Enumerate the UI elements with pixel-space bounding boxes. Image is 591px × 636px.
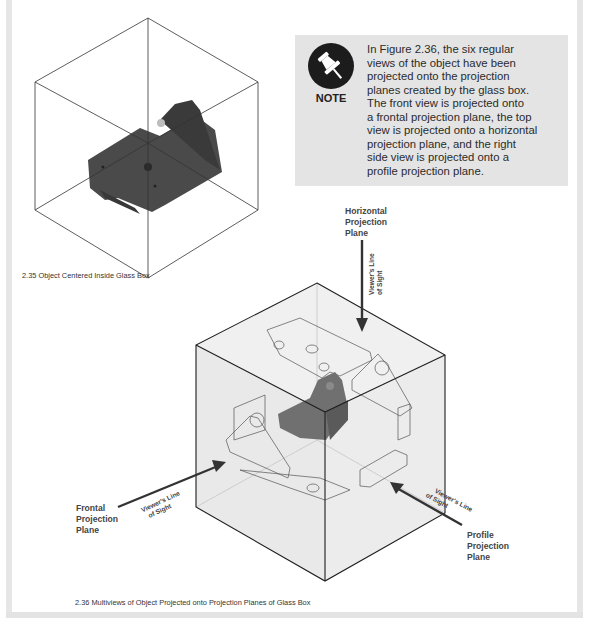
label-line: Plane	[76, 525, 118, 536]
note-line: a frontal projection plane, the top	[367, 111, 567, 125]
figure-235-glass-box	[35, 18, 258, 278]
note-line: In Figure 2.36, the six regular	[367, 43, 567, 57]
label-line: Plane	[467, 552, 509, 563]
los-line: of Sight	[376, 253, 384, 295]
figure-236-caption: 2.36 Multiviews of Object Projected onto…	[75, 598, 310, 607]
note-line: projection plane, and the right	[367, 138, 567, 152]
note-line: view is projected onto a horizontal	[367, 124, 567, 138]
note-line: profile projection plane.	[367, 165, 567, 179]
note-label: NOTE	[307, 92, 355, 104]
pushpin-icon	[308, 43, 354, 89]
label-line: Horizontal	[345, 206, 387, 217]
los-line: Viewer's Line	[368, 253, 376, 295]
label-line: Projection	[467, 541, 509, 552]
figure-235-caption: 2.35 Object Centered Inside Glass Box	[22, 271, 150, 280]
note-line: views of the object have been	[367, 57, 567, 71]
label-line: Projection	[76, 514, 118, 525]
label-line: Projection	[345, 217, 387, 228]
object-solid	[88, 100, 222, 214]
note-text: In Figure 2.36, the six regular views of…	[367, 43, 567, 178]
profile-plane-label: Profile Projection Plane	[467, 530, 509, 563]
label-line: Profile	[467, 530, 509, 541]
label-line: Plane	[345, 228, 387, 239]
note-callout: NOTE In Figure 2.36, the six regular vie…	[295, 35, 568, 186]
frontal-plane-label: Frontal Projection Plane	[76, 503, 118, 536]
figure-236-glass-box	[196, 283, 445, 581]
horizontal-line-of-sight-label: Viewer's Line of Sight	[368, 253, 384, 295]
note-line: projected onto the projection	[367, 70, 567, 84]
note-line: planes created by the glass box.	[367, 84, 567, 98]
note-line: The front view is projected onto	[367, 97, 567, 111]
horizontal-plane-label: Horizontal Projection Plane	[345, 206, 387, 239]
note-line: side view is projected onto a	[367, 151, 567, 165]
label-line: Frontal	[76, 503, 118, 514]
